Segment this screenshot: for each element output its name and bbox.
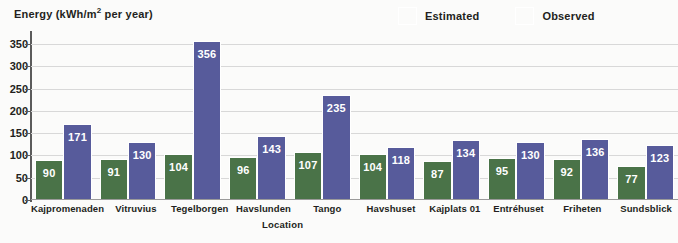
plot-area: 9017191130104356961431072351041188713495… — [31, 33, 678, 200]
y-axis-tick — [25, 200, 31, 201]
x-axis-baseline — [31, 199, 678, 200]
bar-value-label: 104 — [169, 161, 188, 173]
bar-observed[interactable]: 130 — [516, 142, 544, 200]
bar-estimated[interactable]: 92 — [553, 159, 581, 200]
x-axis-tick-label: Vitruvius — [104, 203, 168, 214]
bar-estimated[interactable]: 90 — [35, 160, 63, 200]
bar-estimated[interactable]: 104 — [359, 154, 387, 200]
y-axis-tick — [25, 133, 31, 134]
bar-value-label: 143 — [262, 143, 281, 155]
x-axis-tick-label: Friheten — [550, 203, 614, 214]
x-axis-tick-label: Kajpromenaden — [31, 203, 104, 214]
bar-value-label: 118 — [392, 154, 410, 166]
bar-group: 77123 — [613, 33, 678, 200]
bar-value-label: 92 — [560, 166, 573, 178]
bar-value-label: 123 — [650, 152, 669, 164]
bar-value-label: 134 — [456, 147, 475, 159]
bar-value-label: 130 — [521, 149, 540, 161]
bar-group: 91130 — [96, 33, 161, 200]
bar-observed[interactable]: 123 — [646, 145, 674, 200]
bar-observed[interactable]: 134 — [452, 140, 480, 200]
x-axis-tick-labels: KajpromenadenVitruviusTegelborgenHavslun… — [31, 203, 678, 214]
bar-estimated[interactable]: 91 — [100, 159, 128, 200]
bar-observed[interactable]: 235 — [322, 95, 350, 200]
bar-observed[interactable]: 136 — [581, 139, 609, 200]
bar-group: 96143 — [225, 33, 290, 200]
bar-group: 104356 — [160, 33, 225, 200]
y-axis-title-suffix: per year) — [101, 8, 153, 20]
bar-group: 87134 — [419, 33, 484, 200]
bar-value-label: 235 — [327, 102, 346, 114]
bar-observed[interactable]: 356 — [193, 41, 221, 200]
chart-legend: Estimated Observed — [398, 7, 595, 25]
x-axis-tick-label: Tango — [295, 203, 359, 214]
bar-groups: 9017191130104356961431072351041188713495… — [31, 33, 678, 200]
bar-estimated[interactable]: 104 — [164, 154, 192, 200]
bar-observed[interactable]: 171 — [63, 124, 91, 200]
y-axis-tick — [25, 89, 31, 90]
legend-swatch-observed — [515, 7, 534, 25]
bar-value-label: 136 — [586, 146, 605, 158]
bar-value-label: 77 — [625, 173, 638, 185]
x-axis-tick-label: Kajplats 01 — [423, 203, 487, 214]
y-axis-tick — [25, 155, 31, 156]
bar-group: 92136 — [549, 33, 614, 200]
y-axis-tick — [25, 66, 31, 67]
y-axis-title: Energy (kWh/m2 per year) — [14, 6, 153, 20]
bar-group: 104118 — [355, 33, 420, 200]
legend-item-estimated: Estimated — [398, 7, 479, 25]
x-axis-tick-label: Havslunden — [232, 203, 296, 214]
x-axis-title: Location — [262, 219, 303, 230]
bar-value-label: 96 — [237, 164, 250, 176]
bar-value-label: 87 — [431, 168, 444, 180]
bar-estimated[interactable]: 96 — [229, 157, 257, 200]
bar-group: 90171 — [31, 33, 96, 200]
x-axis-tick-label: Entréhuset — [487, 203, 551, 214]
y-axis-tick — [25, 44, 31, 45]
bar-value-label: 90 — [43, 167, 56, 179]
bar-estimated[interactable]: 87 — [423, 161, 451, 200]
bar-value-label: 104 — [363, 161, 382, 173]
x-axis-tick-label: Havshuset — [359, 203, 423, 214]
x-axis-tick-label: Sundsblick — [614, 203, 678, 214]
bar-value-label: 130 — [133, 149, 152, 161]
bar-value-label: 356 — [197, 48, 216, 60]
bar-group: 107235 — [290, 33, 355, 200]
bar-estimated[interactable]: 95 — [488, 158, 516, 200]
legend-swatch-estimated — [398, 7, 417, 25]
bar-estimated[interactable]: 77 — [617, 166, 645, 200]
legend-label-estimated: Estimated — [425, 10, 479, 22]
bar-group: 95130 — [484, 33, 549, 200]
bar-observed[interactable]: 143 — [257, 136, 285, 200]
legend-item-observed: Observed — [515, 7, 594, 25]
bar-value-label: 171 — [68, 131, 87, 143]
x-axis-tick-label: Tegelborgen — [168, 203, 232, 214]
y-axis-tick — [25, 178, 31, 179]
bar-chart: Energy (kWh/m2 per year) Estimated Obser… — [0, 0, 678, 243]
bar-value-label: 107 — [299, 159, 318, 171]
y-axis-tick — [25, 111, 31, 112]
bar-observed[interactable]: 118 — [387, 147, 415, 200]
bar-value-label: 95 — [496, 165, 509, 177]
legend-label-observed: Observed — [542, 10, 594, 22]
bar-value-label: 91 — [108, 166, 121, 178]
bar-observed[interactable]: 130 — [128, 142, 156, 200]
bar-estimated[interactable]: 107 — [294, 152, 322, 200]
y-axis-tick-labels: 050100150200250300350 — [0, 0, 28, 243]
